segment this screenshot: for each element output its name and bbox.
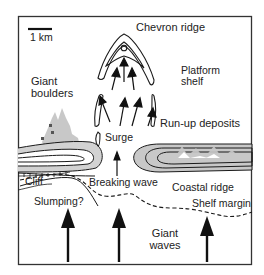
label-giant-waves-1: Giant <box>148 228 182 240</box>
label-coastal-ridge: Coastal ridge <box>172 182 234 194</box>
right-headland-deposits <box>134 144 252 172</box>
label-platform-shelf-2: shelf <box>181 76 203 88</box>
label-giant-waves-2: waves <box>146 240 184 252</box>
label-slumping: Slumping? <box>34 196 84 208</box>
label-giant-boulders-1: Giant <box>31 76 57 88</box>
label-shelf-margin: Shelf margin <box>192 198 251 210</box>
label-cliff: Cliff <box>25 176 43 188</box>
scale-bar-label: 1 km <box>30 32 53 44</box>
label-run-up-deposits: Run-up deposits <box>160 118 240 130</box>
label-giant-boulders-2: boulders <box>31 88 73 100</box>
label-surge: Surge <box>105 132 133 144</box>
label-breaking-wave: Breaking wave <box>89 177 158 189</box>
label-chevron-ridge: Chevron ridge <box>136 22 205 34</box>
